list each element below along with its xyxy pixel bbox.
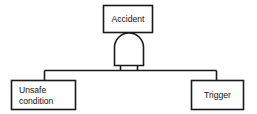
and-gate[interactable]: [115, 33, 144, 71]
fault-tree-canvas: Accident Unsafe condition Trigger: [0, 0, 257, 114]
unsafe-condition-label-line-1: Unsafe: [19, 85, 46, 95]
unsafe-condition-label-line-2: condition: [19, 96, 54, 106]
input-node-trigger[interactable]: Trigger: [192, 81, 244, 110]
fault-tree-diagram: Accident Unsafe condition Trigger: [0, 0, 257, 114]
input-node-unsafe-condition[interactable]: Unsafe condition: [12, 81, 76, 110]
top-event-node[interactable]: Accident: [104, 6, 153, 33]
trigger-label: Trigger: [204, 90, 231, 100]
top-event-label: Accident: [112, 14, 146, 24]
and-gate-shape: [115, 33, 144, 66]
